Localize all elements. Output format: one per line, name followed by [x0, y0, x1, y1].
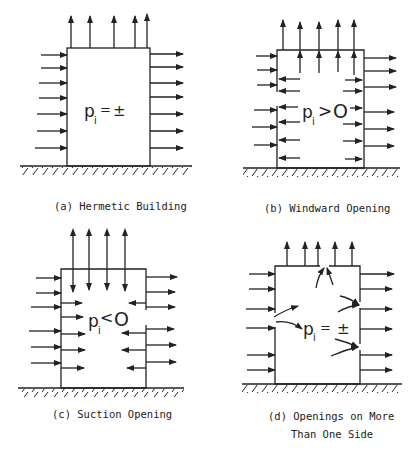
pressure-subscript: i [313, 332, 316, 343]
roof-suction-arrows [287, 242, 352, 266]
roof-opening-flow-arrows [316, 268, 333, 288]
leeward-suction-arrows [146, 277, 177, 362]
ground-hatch [243, 169, 400, 177]
pressure-label-d: p i = ± [303, 319, 350, 343]
pressure-value: O [114, 308, 129, 330]
internal-left-wall-arrows [61, 303, 85, 368]
windward-pressure-arrows [246, 274, 275, 370]
roof-suction-arrows [71, 14, 147, 48]
left-opening-flow-arrows [274, 306, 302, 329]
leeward-suction-arrows [364, 58, 396, 146]
panel-b-windward-opening [243, 20, 400, 177]
internal-roof-pressure-arrows [300, 51, 354, 75]
roof-suction-arrows [73, 236, 125, 292]
roof-suction-arrows [283, 20, 354, 50]
pressure-relation: < [100, 308, 113, 327]
pressure-value: O [333, 100, 348, 122]
ground-hatch [18, 389, 184, 397]
caption-a: (a) Hermetic Building [54, 200, 187, 212]
pressure-subscript: i [94, 115, 97, 126]
internal-left-wall-arrows [279, 79, 300, 158]
caption-b: (b) Windward Opening [264, 202, 390, 214]
building-pressure-diagram: p i = ± p i > O p i < O p i = ± [0, 0, 416, 453]
pressure-relation: = [320, 320, 331, 335]
pressure-label-b: p i > O [302, 100, 348, 127]
panel-d-multiple-openings [242, 242, 402, 393]
windward-pressure-arrows [29, 278, 61, 363]
pressure-value: ± [337, 320, 350, 338]
pressure-relation: > [318, 101, 332, 121]
leeward-suction-arrows [360, 274, 394, 370]
caption-c: (c) Suction Opening [52, 408, 172, 420]
pressure-value: ± [113, 102, 126, 120]
ground-hatch [20, 167, 192, 175]
leeward-suction-arrows [150, 54, 183, 148]
windward-pressure-arrows [35, 55, 67, 148]
pressure-label-c: p i < O [88, 308, 129, 336]
ground-hatch [242, 385, 402, 393]
caption-d-line2: Than One Side [291, 428, 373, 440]
panel-a-hermetic-building [20, 14, 192, 175]
building-outline [61, 269, 146, 388]
pressure-label-a: p i = ± [84, 101, 126, 126]
caption-d-line1: (d) Openings on More [268, 410, 394, 422]
pressure-relation: = [100, 102, 111, 117]
windward-pressure-arrows [252, 56, 277, 145]
pressure-subscript: i [312, 116, 315, 127]
